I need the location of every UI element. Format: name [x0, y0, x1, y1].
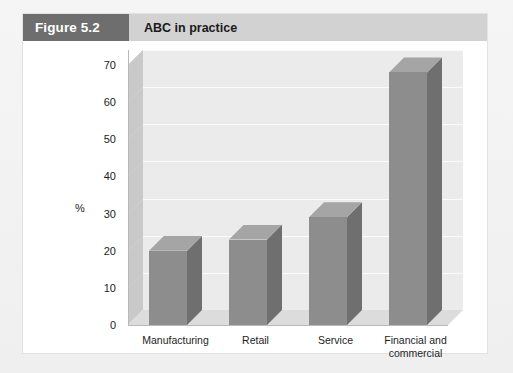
y-axis-tick-label: 30 [86, 208, 116, 220]
y-axis-tick-label: 60 [86, 96, 116, 108]
bar-side-face [427, 57, 442, 325]
y-axis-tick-label: 20 [86, 245, 116, 257]
y-axis-tick-label: 40 [86, 170, 116, 182]
x-axis-tick-label: Financial andcommercial [366, 334, 466, 360]
bar-front-face [309, 217, 347, 325]
y-axis-tick-label: 0 [86, 319, 116, 331]
bar-side-face [267, 225, 282, 325]
y-axis-tick-label: 50 [86, 133, 116, 145]
gridline [143, 50, 463, 51]
y-axis-line [128, 50, 129, 325]
x-axis-line [128, 325, 448, 326]
figure-number-badge: Figure 5.2 [23, 14, 129, 41]
y-axis-tick-label: 10 [86, 282, 116, 294]
x-axis-tick-label-line: Financial and [366, 334, 466, 347]
bar-side-face [347, 202, 362, 325]
y-axis-label: % [75, 202, 85, 214]
bar-front-face [389, 72, 427, 325]
page-background: Figure 5.2 ABC in practice 0102030405060… [0, 0, 513, 373]
figure-title: ABC in practice [129, 14, 487, 41]
bar-side-face [187, 236, 202, 325]
bar-front-face [149, 251, 187, 325]
x-axis-tick-label-line: commercial [366, 347, 466, 360]
figure-header: Figure 5.2 ABC in practice [23, 14, 487, 41]
bar-front-face [229, 240, 267, 325]
bar-chart: 010203040506070 % ManufacturingRetailSer… [23, 41, 487, 355]
y-axis-tick-label: 70 [86, 59, 116, 71]
figure-card: Figure 5.2 ABC in practice 0102030405060… [22, 13, 488, 354]
